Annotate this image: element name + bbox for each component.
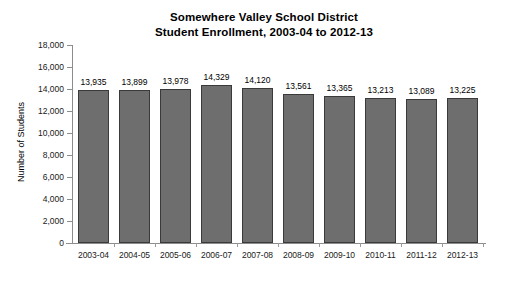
bar-value-label: 14,329 (203, 72, 229, 82)
x-axis-tick-label: 2005-06 (160, 250, 191, 260)
bar (160, 89, 191, 243)
bar-slot: 13,365 (323, 45, 356, 243)
chart-title-line-1: Somewhere Valley School District (170, 11, 358, 23)
x-axis-tick-label: 2012-13 (447, 250, 478, 260)
bar (283, 94, 314, 243)
bar-value-label: 13,365 (326, 83, 352, 93)
bar (365, 98, 396, 243)
y-axis-title: Number of Students (16, 67, 26, 217)
bar (78, 90, 109, 243)
bar-value-label: 13,935 (80, 77, 106, 87)
bar-value-label: 13,978 (162, 76, 188, 86)
x-axis-tick (360, 243, 361, 247)
x-axis-tick-label: 2008-09 (283, 250, 314, 260)
bar (324, 96, 355, 243)
bar-slot: 13,225 (446, 45, 479, 243)
x-axis-tick-label: 2006-07 (201, 250, 232, 260)
y-axis-tick-label: 4,000 (43, 194, 64, 204)
bar-chart: Somewhere Valley School District Student… (0, 0, 528, 281)
x-axis-tick (442, 243, 443, 247)
y-axis-tick-label: 8,000 (43, 150, 64, 160)
x-axis-tick-label: 2003-04 (78, 250, 109, 260)
bar-value-label: 13,225 (449, 85, 475, 95)
y-axis-tick-label: 6,000 (43, 172, 64, 182)
bar (406, 99, 437, 243)
bar-slot: 13,213 (364, 45, 397, 243)
bar-slot: 14,120 (241, 45, 274, 243)
bar-slot: 13,561 (282, 45, 315, 243)
bar (447, 98, 478, 243)
x-axis-tick (401, 243, 402, 247)
x-axis-tick (278, 243, 279, 247)
x-axis-tick (319, 243, 320, 247)
bar (242, 88, 273, 243)
y-axis-tick-label: 2,000 (43, 216, 64, 226)
x-axis-tick (237, 243, 238, 247)
bar-series: 13,93513,89913,97814,32914,12013,56113,3… (73, 45, 483, 243)
bar-value-label: 13,213 (367, 85, 393, 95)
bar-slot: 14,329 (200, 45, 233, 243)
bar-value-label: 13,089 (408, 86, 434, 96)
x-axis-tick (155, 243, 156, 247)
y-axis-tick-label: 12,000 (38, 106, 64, 116)
bar (119, 90, 150, 243)
x-axis-tick (114, 243, 115, 247)
bar-value-label: 14,120 (244, 75, 270, 85)
bar-slot: 13,978 (159, 45, 192, 243)
x-axis-tick-label: 2010-11 (365, 250, 396, 260)
bar-value-label: 13,561 (285, 81, 311, 91)
x-axis-tick-label: 2009-10 (324, 250, 355, 260)
bar-slot: 13,935 (77, 45, 110, 243)
x-axis-tick-label: 2007-08 (242, 250, 273, 260)
x-axis-tick-label: 2011-12 (406, 250, 437, 260)
x-axis-line (66, 243, 486, 244)
y-axis-tick (67, 243, 73, 244)
bar-slot: 13,899 (118, 45, 151, 243)
chart-title-line-2: Student Enrollment, 2003-04 to 2012-13 (0, 25, 528, 40)
y-axis-tick-label: 14,000 (38, 84, 64, 94)
bar-slot: 13,089 (405, 45, 438, 243)
y-axis-tick-label: 0 (59, 238, 64, 248)
y-axis-tick-label: 16,000 (38, 62, 64, 72)
x-axis-tick (483, 243, 484, 247)
bar (201, 85, 232, 243)
bar-value-label: 13,899 (121, 77, 147, 87)
y-axis-tick-label: 18,000 (38, 40, 64, 50)
x-axis-tick-label: 2004-05 (119, 250, 150, 260)
y-axis-tick-label: 10,000 (38, 128, 64, 138)
chart-title: Somewhere Valley School District Student… (0, 10, 528, 39)
x-axis-tick (196, 243, 197, 247)
